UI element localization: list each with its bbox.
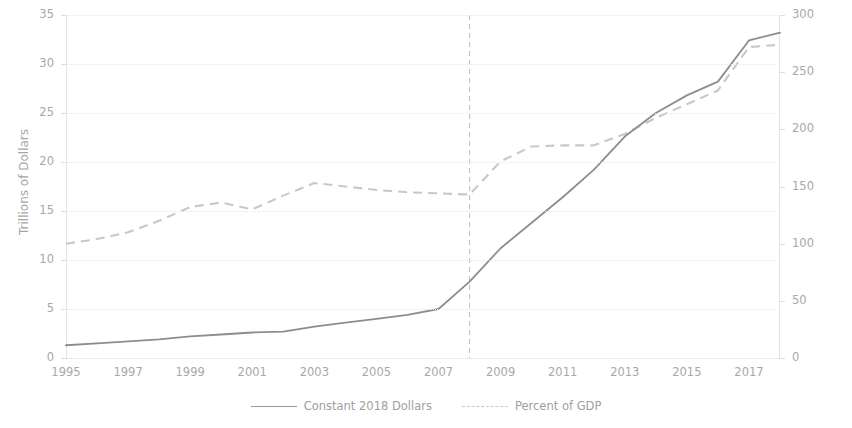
x-tick-label-2013: 2013 xyxy=(598,366,652,378)
legend-label-percent-of-gdp: Percent of GDP xyxy=(515,400,601,412)
y-tick-label-right-0: 0 xyxy=(792,352,838,363)
y-tick-left-30 xyxy=(61,64,66,65)
x-tick-label-2001: 2001 xyxy=(225,366,279,378)
legend-swatch-solid-line-icon xyxy=(251,406,297,407)
y-tick-label-right-300: 300 xyxy=(792,9,838,20)
gridline-y-5 xyxy=(66,309,780,311)
y-tick-left-15 xyxy=(61,211,66,212)
series-layer xyxy=(66,15,780,358)
gridline-y-30 xyxy=(66,64,780,66)
y-tick-label-left-25: 25 xyxy=(14,107,54,118)
y-tick-right-250 xyxy=(780,72,785,73)
x-tick-label-2009: 2009 xyxy=(474,366,528,378)
y-tick-label-right-100: 100 xyxy=(792,238,838,249)
gridline-y-0 xyxy=(66,358,780,360)
gridline-y-20 xyxy=(66,162,780,164)
y-tick-label-left-15: 15 xyxy=(14,205,54,216)
y-tick-left-10 xyxy=(61,260,66,261)
chart-container: Trillions of Dollars Percent of GDP Cons… xyxy=(0,0,852,428)
x-tick-label-1999: 1999 xyxy=(163,366,217,378)
y-tick-right-300 xyxy=(780,15,785,16)
legend-label-constant-dollars: Constant 2018 Dollars xyxy=(304,400,432,412)
y-tick-left-20 xyxy=(61,162,66,163)
x-tick-label-2005: 2005 xyxy=(349,366,403,378)
x-tick-label-1997: 1997 xyxy=(101,366,155,378)
y-tick-right-150 xyxy=(780,187,785,188)
series-line-constant-dollars xyxy=(66,33,780,346)
y-tick-left-25 xyxy=(61,113,66,114)
x-tick-label-1995: 1995 xyxy=(39,366,93,378)
x-tick-label-2007: 2007 xyxy=(412,366,466,378)
plot-area xyxy=(66,15,780,358)
y-tick-label-right-200: 200 xyxy=(792,123,838,134)
y-tick-right-50 xyxy=(780,301,785,302)
y-tick-left-35 xyxy=(61,15,66,16)
y-tick-label-left-20: 20 xyxy=(14,156,54,167)
chart-legend: Constant 2018 Dollars Percent of GDP xyxy=(0,400,852,412)
series-line-percent-of-gdp xyxy=(66,45,780,244)
y-tick-label-left-35: 35 xyxy=(14,9,54,20)
y-tick-label-left-30: 30 xyxy=(14,58,54,69)
x-tick-label-2017: 2017 xyxy=(722,366,776,378)
y-tick-label-right-250: 250 xyxy=(792,66,838,77)
legend-swatch-dashed-line-icon xyxy=(462,406,508,407)
y-tick-left-0 xyxy=(61,358,66,359)
gridline-y-35 xyxy=(66,15,780,17)
gridline-y-15 xyxy=(66,211,780,213)
gridline-y-10 xyxy=(66,260,780,262)
y-tick-left-5 xyxy=(61,309,66,310)
y-tick-right-200 xyxy=(780,129,785,130)
x-tick-label-2015: 2015 xyxy=(660,366,714,378)
y-tick-label-left-10: 10 xyxy=(14,254,54,265)
y-tick-label-left-0: 0 xyxy=(14,352,54,363)
chart-title-cropped xyxy=(0,0,852,6)
x-tick-label-2011: 2011 xyxy=(536,366,590,378)
y-tick-right-100 xyxy=(780,244,785,245)
x-tick-label-2003: 2003 xyxy=(287,366,341,378)
y-tick-label-left-5: 5 xyxy=(14,303,54,314)
y-tick-right-0 xyxy=(780,358,785,359)
legend-item-percent-of-gdp[interactable]: Percent of GDP xyxy=(462,400,601,412)
legend-item-constant-dollars[interactable]: Constant 2018 Dollars xyxy=(251,400,432,412)
y-tick-label-right-150: 150 xyxy=(792,181,838,192)
gridline-y-25 xyxy=(66,113,780,115)
y-tick-label-right-50: 50 xyxy=(792,295,838,306)
